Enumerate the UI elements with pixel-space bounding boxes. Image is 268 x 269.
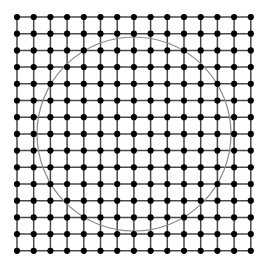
lattice-dot: [198, 248, 204, 254]
lattice-dot: [231, 181, 237, 187]
lattice-dot: [148, 148, 154, 154]
lattice-dot: [131, 114, 137, 120]
lattice-dot: [248, 248, 254, 254]
lattice-dot: [164, 97, 170, 103]
lattice-dot: [181, 214, 187, 220]
lattice-dot: [214, 114, 220, 120]
lattice-dot: [181, 97, 187, 103]
lattice-dot: [14, 198, 20, 204]
lattice-dot: [181, 14, 187, 20]
lattice-dot: [214, 198, 220, 204]
lattice-dot: [231, 81, 237, 87]
lattice-dot: [64, 164, 70, 170]
lattice-dot: [164, 114, 170, 120]
lattice-dot: [181, 64, 187, 70]
lattice-dot: [148, 31, 154, 37]
lattice-dot: [164, 164, 170, 170]
lattice-dot: [81, 181, 87, 187]
lattice-dot: [131, 131, 137, 137]
lattice-dot: [64, 31, 70, 37]
lattice-dot: [114, 114, 120, 120]
lattice-dot: [164, 198, 170, 204]
lattice-dot: [114, 81, 120, 87]
lattice-dot: [47, 164, 53, 170]
lattice-dot: [14, 181, 20, 187]
lattice-dot: [97, 198, 103, 204]
lattice-dot: [31, 114, 37, 120]
lattice-dot: [148, 81, 154, 87]
lattice-dot: [14, 47, 20, 53]
lattice-dot: [231, 248, 237, 254]
lattice-dot: [231, 114, 237, 120]
lattice-dot: [97, 148, 103, 154]
lattice-dot: [248, 181, 254, 187]
lattice-dot: [148, 97, 154, 103]
lattice-dot: [31, 14, 37, 20]
lattice-dot: [97, 164, 103, 170]
lattice-dot: [114, 47, 120, 53]
lattice-dot: [181, 81, 187, 87]
lattice-dot: [164, 181, 170, 187]
lattice-dot: [198, 231, 204, 237]
lattice-dot: [231, 131, 237, 137]
lattice-dot: [81, 231, 87, 237]
lattice-dot: [114, 64, 120, 70]
lattice-dot: [14, 64, 20, 70]
lattice-dot: [81, 64, 87, 70]
lattice-dot: [248, 164, 254, 170]
lattice-dot: [131, 14, 137, 20]
lattice-dot: [164, 31, 170, 37]
lattice-dot: [81, 31, 87, 37]
lattice-dot: [47, 31, 53, 37]
lattice-dot: [114, 164, 120, 170]
lattice-dot: [131, 181, 137, 187]
lattice-dot: [248, 14, 254, 20]
lattice-dot: [47, 114, 53, 120]
lattice-dot: [14, 31, 20, 37]
lattice-dot: [64, 114, 70, 120]
lattice-dot: [81, 47, 87, 53]
lattice-dot: [114, 198, 120, 204]
lattice-dot: [164, 131, 170, 137]
lattice-dot: [114, 148, 120, 154]
lattice-dot: [31, 248, 37, 254]
lattice-dot: [231, 31, 237, 37]
lattice-dot: [31, 31, 37, 37]
figure-canvas: [0, 0, 268, 269]
lattice-dot: [64, 198, 70, 204]
lattice-dot: [31, 148, 37, 154]
lattice-dot: [47, 248, 53, 254]
lattice-dot: [231, 97, 237, 103]
lattice-dot: [97, 81, 103, 87]
lattice-dot: [248, 47, 254, 53]
lattice-dot: [97, 64, 103, 70]
lattice-dot: [81, 114, 87, 120]
lattice-dot: [214, 231, 220, 237]
lattice-dot: [47, 64, 53, 70]
lattice-dot: [181, 231, 187, 237]
lattice-dot: [14, 214, 20, 220]
lattice-dot: [64, 97, 70, 103]
lattice-dot: [131, 148, 137, 154]
lattice-dot: [148, 131, 154, 137]
lattice-dot: [148, 164, 154, 170]
lattice-dot: [114, 231, 120, 237]
lattice-dot: [248, 131, 254, 137]
lattice-dot: [248, 97, 254, 103]
lattice-dot: [64, 148, 70, 154]
lattice-dot: [181, 114, 187, 120]
lattice-dot: [181, 198, 187, 204]
lattice-dot: [148, 214, 154, 220]
lattice-dot: [181, 31, 187, 37]
lattice-dot: [131, 214, 137, 220]
lattice-dot: [114, 14, 120, 20]
lattice-dot: [231, 64, 237, 70]
lattice-dot: [64, 81, 70, 87]
lattice-dot: [231, 198, 237, 204]
lattice-dot: [14, 14, 20, 20]
lattice-dot: [181, 148, 187, 154]
lattice-dot: [198, 97, 204, 103]
lattice-dot: [47, 131, 53, 137]
lattice-dot: [81, 97, 87, 103]
lattice-dot: [248, 81, 254, 87]
